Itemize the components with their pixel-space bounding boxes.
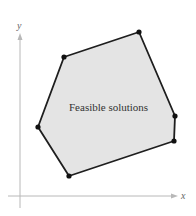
vertex-point (171, 138, 176, 143)
y-axis-label: y (16, 20, 22, 31)
region-label: Feasible solutions (69, 101, 148, 113)
y-axis-arrow-icon (18, 33, 23, 40)
x-axis-label: x (180, 190, 186, 201)
vertex-point (61, 54, 66, 59)
vertex-point (66, 173, 71, 178)
vertex-point (35, 124, 40, 129)
vertex-point (136, 29, 141, 34)
vertex-point (172, 113, 177, 118)
x-axis-arrow-icon (171, 194, 178, 199)
feasible-region-diagram: y x Feasible solutions (0, 0, 196, 216)
